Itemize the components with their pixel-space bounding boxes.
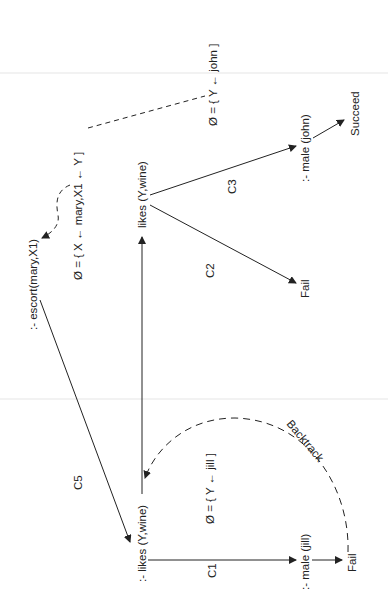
edge-label-c2: C2 [204,263,216,278]
edge-c3 [150,146,296,195]
edge-label-c5: C5 [72,475,84,490]
substitution-john: Ø = { Y ← john ] [207,44,219,126]
dashed-line-john [88,96,205,128]
backtrack-arc [145,418,348,552]
edge-label-backtrack: Backtrack [284,418,326,465]
node-escort: :- escort(mary,X1) [27,239,39,330]
edge-succeed [313,120,344,138]
edge-c5 [40,300,130,542]
dashed-arrow-to-escort [42,185,70,238]
node-fail-c2: Fail [299,279,311,298]
edge-label-c3: C3 [226,179,238,194]
node-likes-top: likes (Y,wine) [136,161,148,228]
edge-label-c1: C1 [206,563,218,578]
edge-c2 [150,205,296,283]
node-male-john: :- male (john) [299,114,311,182]
substitution-jill: Ø = { Y ← jill ] [204,453,216,524]
substitution-top: Ø = { X ← mary,X1 ← Y ] [72,152,84,280]
node-succeed: Succeed [349,91,361,136]
node-male-jill: :- male (jill) [299,534,311,590]
node-likes-bottom: :- likes (Y,wine) [136,505,148,582]
node-fail-jill: Fail [346,553,358,572]
prolog-search-diagram: :- escort(mary,X1) Ø = { X ← mary,X1 ← Y… [0,0,388,616]
